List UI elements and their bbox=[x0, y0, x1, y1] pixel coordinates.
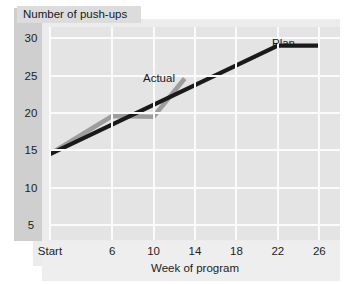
y-axis-tick-label: 30 bbox=[14, 32, 48, 44]
series-line-plan bbox=[50, 46, 319, 154]
series-annotation-plan: Plan bbox=[272, 37, 295, 49]
x-axis-tick-label: 18 bbox=[230, 245, 243, 257]
x-axis-tick-label: Start bbox=[38, 245, 62, 257]
gridline-vertical bbox=[235, 27, 237, 240]
series-annotation-actual: Actual bbox=[143, 72, 175, 84]
x-axis-tick-labels: Start61014182226 bbox=[50, 245, 340, 261]
gridline-vertical bbox=[111, 27, 113, 240]
x-axis-tick-label: 22 bbox=[271, 245, 284, 257]
x-axis-tick-label: 10 bbox=[147, 245, 160, 257]
gridline-vertical bbox=[153, 27, 155, 240]
gridline-vertical bbox=[318, 27, 320, 240]
gridline-vertical bbox=[194, 27, 196, 240]
x-axis-tick-label: 14 bbox=[189, 245, 202, 257]
gridline-vertical bbox=[49, 27, 51, 240]
plot-area bbox=[50, 27, 340, 240]
push-ups-line-chart: Number of push-ups 30252015105 Start6101… bbox=[0, 0, 354, 284]
gridline-vertical bbox=[277, 27, 279, 240]
x-axis-title: Week of program bbox=[50, 262, 340, 274]
y-axis-tick-label: 25 bbox=[14, 70, 48, 82]
y-axis-tick-label: 15 bbox=[14, 144, 48, 156]
x-axis-strip: Start61014182226 Week of program bbox=[42, 241, 340, 281]
x-axis-tick-label: 6 bbox=[109, 245, 115, 257]
chart-title: Number of push-ups bbox=[17, 6, 141, 23]
y-axis-tick-label: 5 bbox=[14, 219, 48, 231]
y-axis-tick-label: 10 bbox=[14, 182, 48, 194]
x-axis-tick-label: 26 bbox=[313, 245, 326, 257]
y-axis-tick-label: 20 bbox=[14, 107, 48, 119]
